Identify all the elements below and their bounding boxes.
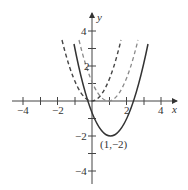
parabola-solid <box>74 44 148 136</box>
graph-figure: −4 −2 2 4 4 2 −2 −4 x y (1,−2) <box>0 0 188 190</box>
y-tick-label: −4 <box>75 165 87 177</box>
y-tick-label: −2 <box>75 130 87 142</box>
y-axis-label: y <box>96 11 102 23</box>
x-tick-label: 4 <box>158 104 164 116</box>
y-tick-label: 4 <box>81 25 87 37</box>
vertex-label: (1,−2) <box>100 138 128 151</box>
x-tick-label: −4 <box>17 104 29 116</box>
y-tick-label: 2 <box>84 60 90 72</box>
x-axis-label: x <box>171 103 177 115</box>
x-tick-label: −2 <box>52 104 64 116</box>
coordinate-plane: −4 −2 2 4 4 2 −2 −4 x y (1,−2) <box>0 0 188 190</box>
x-tick-label: 2 <box>124 104 130 116</box>
